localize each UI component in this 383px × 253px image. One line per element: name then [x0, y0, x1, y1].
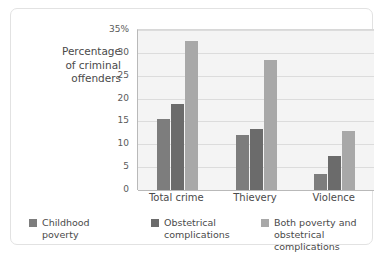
y-axis-tick-label: 0	[123, 184, 129, 194]
y-axis-tick-labels: 05101520253035%	[97, 29, 133, 189]
bar-group	[157, 30, 198, 190]
gridline	[138, 190, 374, 191]
bar	[264, 60, 277, 190]
legend-label: Obstetrical complications	[164, 217, 230, 241]
bar	[342, 131, 355, 190]
chart-legend: Childhood povertyObstetrical complicatio…	[29, 217, 367, 247]
legend-label: Both poverty and obstetrical complicatio…	[274, 217, 367, 253]
legend-swatch-icon	[29, 219, 37, 227]
legend-swatch-icon	[261, 219, 269, 227]
x-axis-tick-label: Total crime	[149, 192, 204, 203]
bar	[236, 135, 249, 190]
bars-layer	[138, 30, 374, 190]
legend-item[interactable]: Obstetrical complications	[151, 217, 230, 241]
chart-card: Percentage of criminal offenders 0510152…	[10, 8, 373, 245]
bar	[250, 129, 263, 190]
bar-group	[314, 30, 355, 190]
bar-group	[236, 30, 277, 190]
bar	[314, 174, 327, 190]
y-axis-tick-label: 5	[123, 161, 129, 171]
x-axis-tick-label: Violence	[312, 192, 354, 203]
legend-item[interactable]: Childhood poverty	[29, 217, 90, 241]
bar	[171, 104, 184, 190]
legend-swatch-icon	[151, 219, 159, 227]
legend-item[interactable]: Both poverty and obstetrical complicatio…	[261, 217, 367, 253]
bar	[328, 156, 341, 190]
y-axis-tick-label: 30	[118, 47, 129, 57]
legend-label: Childhood poverty	[42, 217, 90, 241]
y-axis-tick-label: 20	[118, 93, 129, 103]
bar	[185, 41, 198, 190]
y-axis-tick-label: 35%	[109, 24, 129, 34]
x-axis-tick-labels: Total crimeThieveryViolence	[137, 192, 373, 208]
plot-area	[137, 29, 374, 190]
y-axis-tick-label: 25	[118, 70, 129, 80]
y-axis-tick-label: 15	[118, 115, 129, 125]
x-axis-tick-label: Thievery	[233, 192, 276, 203]
bar	[157, 119, 170, 190]
y-axis-tick-label: 10	[118, 138, 129, 148]
